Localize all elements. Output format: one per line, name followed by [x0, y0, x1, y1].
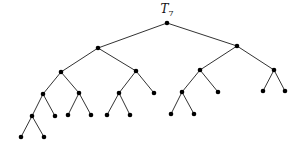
- tree-edge: [32, 94, 43, 116]
- tree-node: [19, 135, 24, 140]
- tree-node: [152, 91, 157, 96]
- tree-edge: [21, 116, 32, 137]
- tree-edge: [237, 46, 274, 70]
- tree-node: [216, 90, 221, 95]
- tree-node: [53, 114, 58, 119]
- tree-node: [66, 113, 71, 118]
- tree-node: [272, 68, 277, 73]
- tree-edge: [43, 94, 55, 116]
- tree-edge: [119, 71, 136, 93]
- tree-edge: [68, 93, 79, 115]
- tree-edge: [98, 23, 167, 48]
- tree-node: [30, 114, 35, 119]
- tree-node: [198, 68, 203, 73]
- tree-node: [165, 21, 170, 26]
- tree-node: [89, 113, 94, 118]
- tree-edge: [263, 70, 274, 91]
- tree-node: [180, 90, 185, 95]
- tree-node: [169, 112, 174, 117]
- tree-title: T7: [160, 2, 173, 18]
- tree-node: [59, 70, 64, 75]
- tree-node: [42, 135, 47, 140]
- tree-edge: [107, 93, 119, 115]
- tree-node: [96, 46, 101, 51]
- tree-node: [192, 112, 197, 117]
- tree-edge: [43, 72, 61, 94]
- tree-diagram: T7: [0, 0, 305, 150]
- tree-edges: [21, 23, 285, 137]
- tree-edge: [182, 92, 194, 114]
- tree-edge: [182, 70, 200, 92]
- tree-node: [117, 91, 122, 96]
- tree-edge: [32, 116, 44, 137]
- tree-title-subscript: 7: [168, 9, 173, 18]
- tree-node: [128, 113, 133, 118]
- tree-edge: [167, 23, 237, 46]
- tree-edge: [98, 48, 136, 71]
- tree-nodes: [19, 21, 288, 140]
- tree-node: [283, 89, 288, 94]
- tree-node: [105, 113, 110, 118]
- tree-edge: [119, 93, 130, 115]
- tree-node: [235, 44, 240, 49]
- tree-edge: [136, 71, 154, 93]
- tree-node: [41, 92, 46, 97]
- tree-edge: [61, 72, 79, 93]
- tree-edge: [200, 46, 237, 70]
- tree-node: [261, 89, 266, 94]
- tree-edge: [171, 92, 182, 114]
- tree-node: [134, 69, 139, 74]
- tree-edge: [200, 70, 218, 92]
- tree-node: [77, 91, 82, 96]
- tree-edge: [61, 48, 98, 72]
- tree-edge: [274, 70, 285, 91]
- tree-edge: [79, 93, 91, 115]
